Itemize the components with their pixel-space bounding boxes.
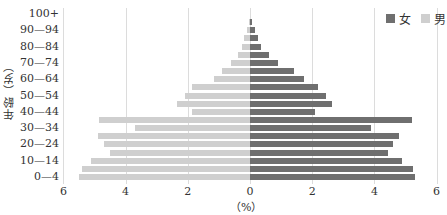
bar-female: [250, 60, 278, 66]
bar-male: [82, 166, 250, 172]
population-pyramid-chart: 年龄（岁） （%） 0—410—1420—2430—3440—4450—5460…: [0, 0, 447, 215]
x-tick-label: 2: [178, 185, 198, 198]
y-tick-label: 0—4: [34, 171, 59, 183]
bar-female: [250, 19, 252, 25]
bar-female: [250, 101, 332, 107]
bar-female: [250, 52, 269, 58]
bar-male: [244, 35, 250, 41]
x-tick-label: 6: [53, 185, 73, 198]
x-tick-label: 4: [364, 185, 384, 198]
bar-male: [135, 125, 250, 131]
bar-female: [250, 158, 402, 164]
bar-female: [250, 117, 412, 123]
gridline: [437, 8, 438, 184]
bar-female: [250, 76, 304, 82]
bar-male: [238, 52, 250, 58]
bar-female: [250, 68, 294, 74]
x-tick-label: 4: [116, 185, 136, 198]
x-tick-label: 2: [302, 185, 322, 198]
x-axis-title: （%）: [230, 198, 262, 214]
y-tick-label: 80—84: [20, 41, 59, 53]
y-tick-label: 60—64: [20, 73, 59, 85]
bar-male: [222, 68, 250, 74]
bar-female: [250, 109, 315, 115]
y-tick-label: 50—54: [20, 90, 59, 102]
bar-female: [250, 125, 371, 131]
bar-male: [185, 93, 250, 99]
y-tick-label: 40—44: [20, 106, 59, 118]
bar-male: [192, 84, 250, 90]
y-tick-label: 20—24: [20, 138, 59, 150]
bar-female: [250, 35, 258, 41]
bar-male: [104, 141, 250, 147]
bar-female: [250, 141, 393, 147]
bar-female: [250, 133, 399, 139]
bar-male: [192, 109, 250, 115]
bar-male: [110, 150, 250, 156]
y-axis-title: 年龄（岁）: [2, 60, 18, 120]
bar-male: [98, 133, 250, 139]
x-tick-label: 0: [240, 185, 260, 198]
bar-female: [250, 150, 388, 156]
bar-male: [231, 60, 250, 66]
y-tick-label: 70—74: [20, 57, 59, 69]
x-tick-label: 6: [427, 185, 447, 198]
y-tick-label: 90—94: [20, 24, 59, 36]
bar-female: [250, 166, 413, 172]
bar-female: [250, 174, 415, 180]
bar-male: [214, 76, 250, 82]
bar-female: [250, 84, 318, 90]
bar-male: [247, 27, 250, 33]
y-tick-label: 10—14: [20, 155, 59, 167]
legend-swatch-female: [386, 14, 395, 23]
legend-swatch-male: [421, 14, 430, 23]
legend: 女 男: [386, 10, 446, 27]
y-tick-label: 30—34: [20, 122, 59, 134]
gridline: [63, 8, 64, 184]
bar-female: [250, 44, 261, 50]
bar-male: [79, 174, 250, 180]
bar-male: [91, 158, 250, 164]
bar-male: [99, 117, 250, 123]
bar-male: [177, 101, 250, 107]
legend-label-male: 男: [434, 10, 446, 27]
bar-male: [242, 44, 250, 50]
legend-label-female: 女: [399, 10, 411, 27]
bar-female: [250, 93, 326, 99]
bar-male: [249, 19, 250, 25]
y-tick-label: 100+: [29, 8, 59, 20]
bar-female: [250, 27, 255, 33]
